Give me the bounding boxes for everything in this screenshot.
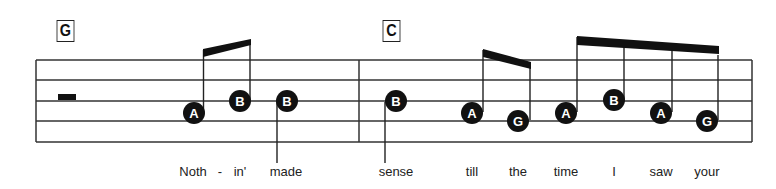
lyric-syllable: saw [649, 164, 672, 179]
svg-text:B: B [282, 94, 291, 109]
lyric-syllable: in' [234, 164, 247, 179]
beam-2 [483, 49, 531, 69]
note-b: B [276, 90, 298, 112]
svg-text:B: B [235, 94, 244, 109]
lyric-syllable: sense [379, 164, 414, 179]
lyric-syllable: made [270, 164, 303, 179]
beam-3 [577, 36, 719, 54]
note-g: G [696, 110, 718, 132]
chord-symbol-c: C [383, 20, 401, 42]
note-b: B [229, 90, 251, 112]
lyric-hyphen: - [218, 164, 222, 179]
note-a: A [461, 102, 483, 124]
chord-symbol-g: G [57, 20, 75, 42]
lyric-syllable: your [694, 164, 719, 179]
svg-text:G: G [513, 114, 523, 129]
svg-text:B: B [391, 94, 400, 109]
svg-text:G: G [702, 114, 712, 129]
note-b: B [603, 89, 625, 111]
svg-text:A: A [656, 106, 666, 121]
note-a: A [555, 102, 577, 124]
svg-text:A: A [561, 106, 571, 121]
beam-1 [203, 39, 251, 57]
half-rest-icon [58, 94, 76, 100]
lyric-syllable: I [612, 164, 616, 179]
note-g: G [507, 110, 529, 132]
lyric-syllable: time [554, 164, 579, 179]
svg-text:B: B [609, 93, 618, 108]
note-a: A [183, 102, 205, 124]
note-a: A [650, 102, 672, 124]
lyric-syllable: Noth [179, 164, 206, 179]
lyric-syllable: till [466, 164, 478, 179]
lyric-syllable: the [509, 164, 527, 179]
noteheads: A B B B A G A B A G [183, 89, 718, 132]
note-b: B [385, 90, 407, 112]
svg-text:A: A [189, 106, 199, 121]
svg-text:A: A [467, 106, 477, 121]
